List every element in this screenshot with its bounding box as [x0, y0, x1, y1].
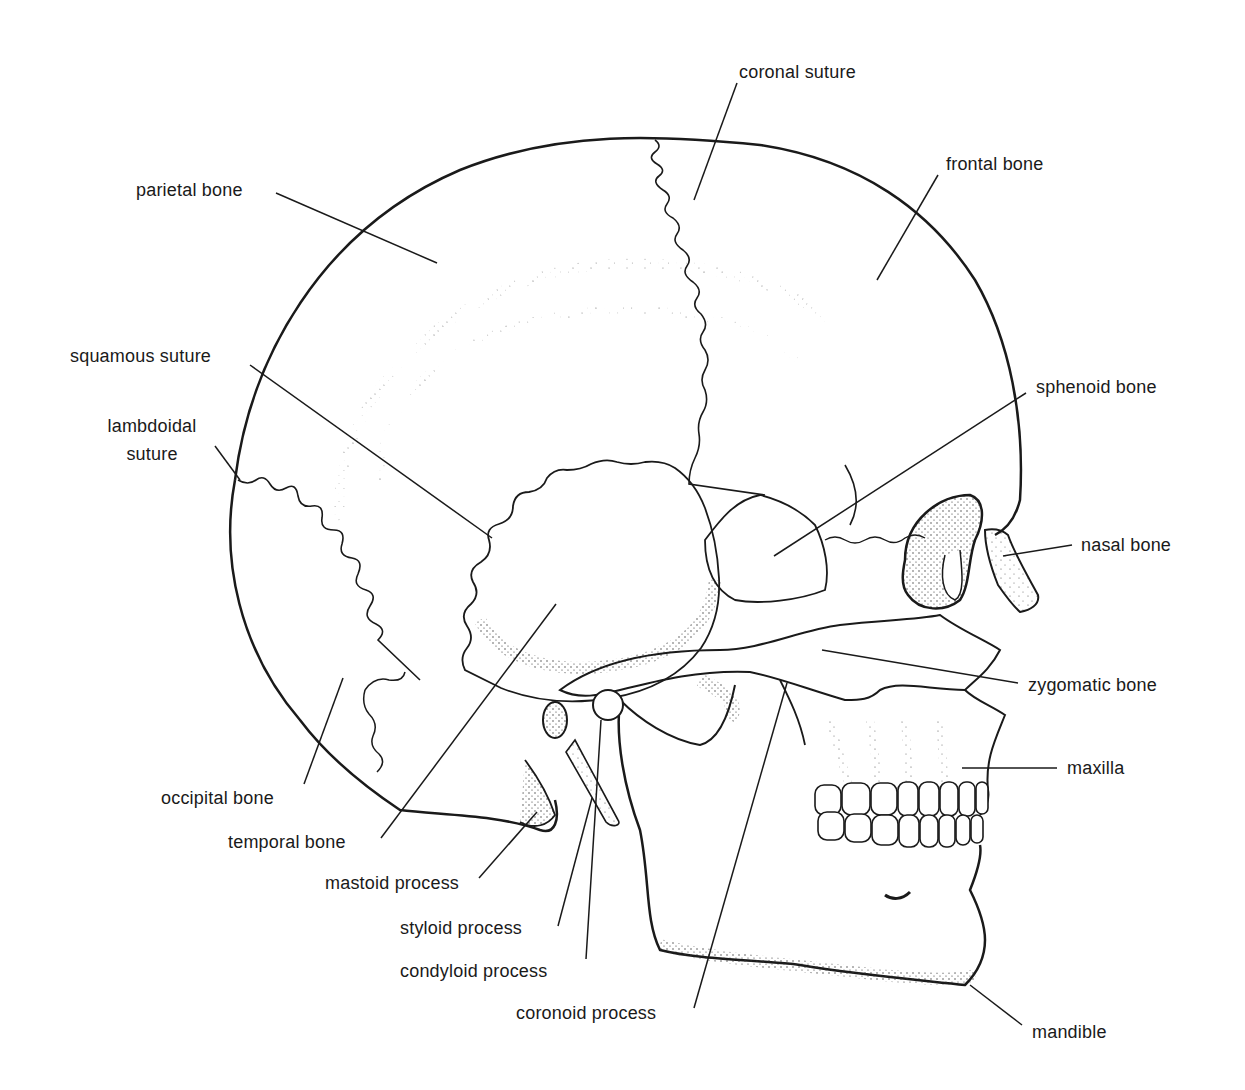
- label-temporal-bone: temporal bone: [228, 832, 346, 852]
- upper-teeth: [815, 782, 988, 816]
- leader-condyloid-process: [586, 720, 601, 959]
- leader-mandible: [970, 985, 1022, 1025]
- label-nasal-bone: nasal bone: [1081, 535, 1171, 555]
- temporal-line-inner: [380, 309, 800, 480]
- label-sphenoid-bone: sphenoid bone: [1036, 377, 1157, 397]
- maxilla-shading: [830, 720, 945, 790]
- mental-foramen: [885, 892, 910, 898]
- label-zygomatic-bone: zygomatic bone: [1028, 675, 1157, 695]
- mastoid-shape: [520, 760, 555, 826]
- leader-parietal-bone: [276, 193, 437, 263]
- greater-wing-line: [845, 465, 856, 525]
- lambdoidal-suture-line: [238, 478, 420, 680]
- nasal-bone-shape: [985, 529, 1038, 612]
- label-squamous-suture: squamous suture: [70, 346, 211, 366]
- label-coronal-suture: coronal suture: [739, 62, 856, 82]
- label-mastoid-process: mastoid process: [325, 873, 459, 893]
- coronoid-process-shape: [780, 680, 805, 745]
- label-maxilla: maxilla: [1067, 758, 1124, 778]
- condyle: [593, 690, 623, 720]
- leader-squamous-suture: [250, 365, 492, 538]
- leader-styloid-process: [558, 798, 592, 926]
- label-occipital-bone: occipital bone: [161, 788, 274, 808]
- skull-illustration: [0, 0, 1245, 1090]
- label-mandible: mandible: [1032, 1022, 1107, 1042]
- label-parietal-bone: parietal bone: [136, 180, 243, 200]
- label-styloid-process: styloid process: [400, 918, 522, 938]
- occipitomastoid-suture: [364, 672, 405, 772]
- orbit: [903, 495, 982, 608]
- sphenoid-outline: [705, 495, 827, 602]
- label-coronoid-process: coronoid process: [516, 1003, 656, 1023]
- cranium-outline: [235, 138, 1021, 535]
- lower-teeth: [818, 812, 983, 847]
- styloid-shape: [566, 740, 619, 826]
- label-lambdoidal-line2: suture: [92, 444, 212, 464]
- label-lambdoidal-suture: lambdoidal suture: [92, 416, 212, 464]
- label-lambdoidal-line1: lambdoidal: [92, 416, 212, 436]
- label-condyloid-process: condyloid process: [400, 961, 547, 981]
- label-frontal-bone: frontal bone: [946, 154, 1043, 174]
- auditory-meatus: [543, 702, 567, 738]
- skull-diagram: coronal suture frontal bone parietal bon…: [0, 0, 1245, 1090]
- temporal-squama-shading: [480, 580, 715, 668]
